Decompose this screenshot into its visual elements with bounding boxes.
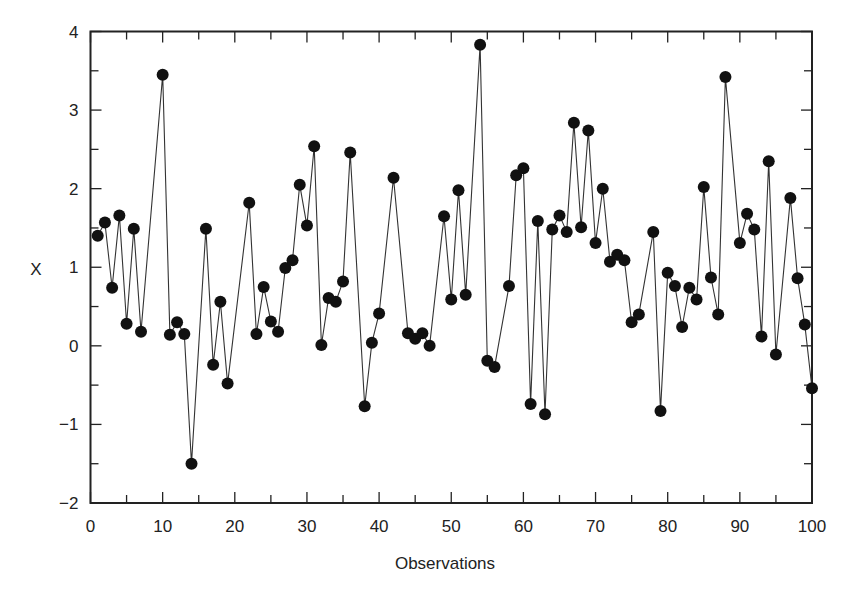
x-tick-label: 60: [514, 517, 533, 536]
data-point-marker: [287, 254, 299, 266]
data-point-marker: [597, 183, 609, 195]
data-point-marker: [388, 172, 400, 184]
data-point-marker: [582, 125, 594, 137]
data-point-marker: [157, 69, 169, 81]
data-point-marker: [445, 293, 457, 305]
y-tick-label: −1: [59, 415, 78, 434]
x-tick-label: 90: [730, 517, 749, 536]
data-point-marker: [741, 208, 753, 220]
x-tick-label: 0: [86, 517, 95, 536]
data-point-marker: [272, 326, 284, 338]
data-point-marker: [618, 254, 630, 266]
data-point-marker: [568, 117, 580, 129]
x-tick-labels: 0102030405060708090100: [86, 517, 826, 536]
data-point-marker: [424, 340, 436, 352]
y-tick-label: 0: [69, 337, 78, 356]
data-point-marker: [164, 329, 176, 341]
y-tick-label: 4: [69, 23, 78, 42]
data-point-marker: [489, 361, 501, 373]
x-tick-label: 70: [586, 517, 605, 536]
data-point-marker: [546, 224, 558, 236]
x-axis-label: Observations: [395, 554, 495, 573]
data-point-marker: [532, 215, 544, 227]
data-point-marker: [337, 275, 349, 287]
data-point-marker: [719, 71, 731, 83]
data-point-marker: [683, 282, 695, 294]
data-point-marker: [539, 408, 551, 420]
data-point-marker: [647, 226, 659, 238]
data-point-marker: [366, 337, 378, 349]
y-tick-labels: −2−101234: [59, 23, 78, 514]
data-point-marker: [106, 282, 118, 294]
data-point-marker: [561, 226, 573, 238]
data-point-marker: [359, 400, 371, 412]
data-point-marker: [575, 221, 587, 233]
x-tick-label: 50: [442, 517, 461, 536]
data-point-marker: [806, 382, 818, 394]
data-point-marker: [712, 308, 724, 320]
plot-frame: [91, 32, 813, 504]
axis-ticks: [91, 32, 813, 504]
data-point-marker: [121, 318, 133, 330]
data-point-marker: [222, 378, 234, 390]
data-point-marker: [178, 328, 190, 340]
data-point-marker: [698, 181, 710, 193]
data-point-marker: [705, 271, 717, 283]
data-point-marker: [691, 293, 703, 305]
data-point-marker: [113, 209, 125, 221]
data-point-marker: [503, 280, 515, 292]
y-tick-label: 1: [69, 258, 78, 277]
x-tick-label: 30: [297, 517, 316, 536]
data-point-marker: [669, 280, 681, 292]
data-point-marker: [99, 216, 111, 228]
x-tick-label: 20: [225, 517, 244, 536]
data-point-marker: [294, 179, 306, 191]
data-point-marker: [474, 39, 486, 51]
data-point-marker: [792, 272, 804, 284]
y-tick-label: −2: [59, 494, 78, 513]
x-tick-label: 80: [658, 517, 677, 536]
data-point-marker: [460, 289, 472, 301]
data-point-marker: [301, 220, 313, 232]
data-point-marker: [308, 140, 320, 152]
data-point-marker: [438, 210, 450, 222]
data-point-marker: [763, 155, 775, 167]
data-point-marker: [344, 147, 356, 159]
data-point-marker: [330, 296, 342, 308]
data-point-marker: [135, 326, 147, 338]
data-point-marker: [654, 405, 666, 417]
data-point-marker: [243, 197, 255, 209]
data-point-marker: [452, 184, 464, 196]
data-point-marker: [373, 308, 385, 320]
data-point-marker: [265, 315, 277, 327]
data-point-marker: [755, 330, 767, 342]
y-tick-label: 3: [69, 101, 78, 120]
data-point-marker: [416, 327, 428, 339]
data-point-marker: [250, 328, 262, 340]
data-point-marker: [662, 267, 674, 279]
data-point-marker: [315, 339, 327, 351]
x-tick-label: 40: [370, 517, 389, 536]
x-tick-label: 100: [798, 517, 826, 536]
data-point-marker: [784, 192, 796, 204]
x-tick-label: 10: [153, 517, 172, 536]
data-point-marker: [553, 209, 565, 221]
data-point-marker: [186, 458, 198, 470]
data-point-marker: [258, 281, 270, 293]
data-point-marker: [676, 321, 688, 333]
data-point-marker: [525, 398, 537, 410]
data-point-marker: [128, 223, 140, 235]
data-point-marker: [207, 359, 219, 371]
data-point-marker: [200, 223, 212, 235]
data-point-marker: [92, 230, 104, 242]
data-point-marker: [633, 308, 645, 320]
data-point-marker: [799, 319, 811, 331]
y-tick-label: 2: [69, 180, 78, 199]
data-point-marker: [517, 162, 529, 174]
time-series-chart: 0102030405060708090100 −2−101234 Observa…: [0, 0, 850, 594]
data-point-marker: [748, 224, 760, 236]
series-line: [98, 45, 812, 464]
data-point-marker: [171, 316, 183, 328]
data-point-marker: [734, 237, 746, 249]
data-point-marker: [770, 348, 782, 360]
